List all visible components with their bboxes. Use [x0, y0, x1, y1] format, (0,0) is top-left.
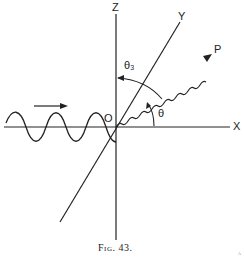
z-axis-label: Z — [112, 2, 119, 13]
theta-z-arc-head — [117, 75, 124, 81]
origin-label: O — [104, 113, 113, 124]
ray-arrow-head — [203, 54, 212, 62]
page-mark: a — [238, 250, 241, 256]
diagram-canvas — [0, 0, 244, 258]
scattered-ray — [116, 81, 206, 127]
incident-arrow-head — [60, 103, 68, 109]
y-axis — [60, 22, 180, 222]
theta-label: θ — [158, 108, 164, 119]
point-p-label: P — [214, 44, 221, 55]
x-axis-label: X — [233, 121, 240, 132]
y-axis-label: Y — [178, 11, 185, 22]
theta-z-label: θ₃ — [124, 60, 135, 71]
figure-caption: Fig. 43. — [98, 242, 132, 253]
